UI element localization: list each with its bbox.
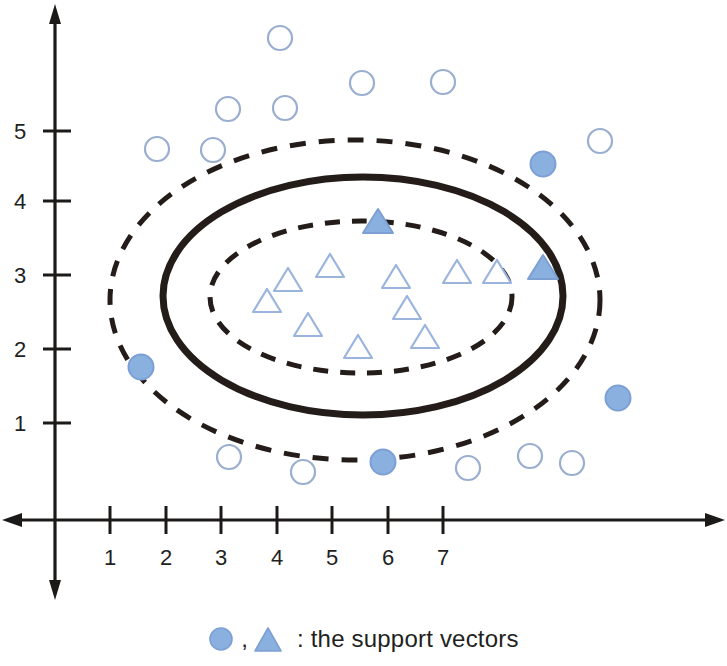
legend-separator: , <box>241 625 248 653</box>
svm-kernel-figure: 1 2 3 4 5 1 2 3 4 5 6 7 <box>0 0 727 666</box>
x-tick-label-5: 5 <box>326 545 338 570</box>
support-vector-circle <box>606 386 631 411</box>
legend-label: : the support vectors <box>297 625 519 653</box>
y-tick-label-2: 2 <box>14 337 26 362</box>
data-point-circle <box>431 70 455 94</box>
data-point-circle <box>456 456 480 480</box>
x-tick-label-1: 1 <box>104 545 116 570</box>
legend: , : the support vectors <box>0 612 727 666</box>
data-point-triangle <box>344 335 372 358</box>
y-axis-tick-labels: 1 2 3 4 5 <box>14 119 26 436</box>
data-point-triangle <box>483 260 511 283</box>
data-point-circle <box>145 137 169 161</box>
data-point-triangle <box>316 254 344 277</box>
y-tick-label-4: 4 <box>14 189 26 214</box>
legend-circle-icon <box>208 626 234 652</box>
legend-triangle-icon <box>253 625 283 653</box>
data-point-circle <box>217 445 241 469</box>
y-axis-arrow-down <box>49 580 61 600</box>
x-tick-label-6: 6 <box>382 545 394 570</box>
y-tick-label-5: 5 <box>14 119 26 144</box>
data-point-triangle <box>411 325 439 348</box>
decision-boundary-ellipse <box>163 177 563 415</box>
data-point-circle <box>216 97 240 121</box>
support-vector-circle <box>371 450 396 475</box>
data-point-triangle <box>382 265 410 288</box>
x-tick-label-2: 2 <box>160 545 172 570</box>
y-tick-label-1: 1 <box>14 411 26 436</box>
y-tick-label-3: 3 <box>14 263 26 288</box>
data-point-circle <box>273 96 297 120</box>
data-point-triangle <box>443 260 471 283</box>
y-axis-ticks <box>43 131 71 423</box>
data-point-circle <box>268 26 292 50</box>
x-axis-arrow-left <box>2 513 22 527</box>
data-point-circle <box>518 444 542 468</box>
scatter-plot-canvas: 1 2 3 4 5 1 2 3 4 5 6 7 <box>0 0 727 612</box>
support-vector-circle <box>531 152 556 177</box>
data-point-circle <box>201 138 225 162</box>
support-vector-circle <box>129 355 154 380</box>
x-tick-label-3: 3 <box>215 545 227 570</box>
data-point-triangle <box>393 296 421 319</box>
data-point-circle <box>350 71 374 95</box>
x-tick-label-7: 7 <box>437 545 449 570</box>
boundaries-group <box>110 140 600 460</box>
data-point-triangle <box>274 268 302 291</box>
x-axis-arrow-right <box>705 513 725 527</box>
x-axis-tick-labels: 1 2 3 4 5 6 7 <box>104 545 449 570</box>
y-axis-arrow-up <box>49 4 61 24</box>
data-point-circle <box>291 460 315 484</box>
data-point-triangle <box>253 289 281 312</box>
data-point-circle <box>588 129 612 153</box>
hollow-triangles-group <box>253 254 511 358</box>
data-point-triangle <box>294 313 322 336</box>
x-tick-label-4: 4 <box>271 545 283 570</box>
data-point-circle <box>560 451 584 475</box>
